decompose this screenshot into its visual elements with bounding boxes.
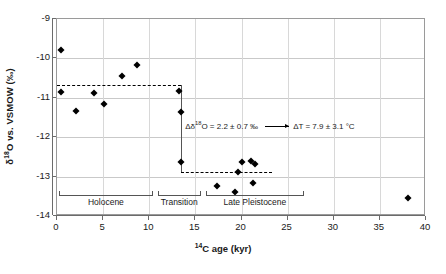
y-axis-tick-label: -13 — [36, 171, 50, 181]
x-axis: 0510152025303540 — [56, 215, 425, 221]
x-axis-tick-label: 35 — [374, 222, 385, 232]
x-axis-tick-label: 10 — [143, 222, 154, 232]
period-label-transition: Transition — [161, 198, 198, 207]
x-axis-tick — [194, 216, 195, 220]
delta-t-arrow — [265, 124, 290, 129]
gridline-vertical — [334, 19, 335, 214]
x-axis-tick — [287, 216, 288, 220]
x-axis-tick — [241, 216, 242, 220]
reference-line-pleistocene-mean — [181, 172, 272, 173]
period-label-late-pleistocene: Late Pleistocene — [223, 198, 286, 207]
gridline-horizontal — [57, 58, 424, 59]
gridline-vertical — [149, 19, 150, 214]
data-point — [405, 195, 412, 202]
x-axis-tick — [333, 216, 334, 220]
data-point — [90, 90, 97, 97]
period-bracket-late-pleistocene — [206, 191, 305, 196]
y-axis-tick-label: -10 — [36, 53, 50, 63]
y-axis-tick-label: -14 — [36, 210, 50, 220]
x-axis-tick-label: 25 — [281, 222, 292, 232]
chart-figure: δ18O vs. VSMOW (‰) -9-10-11-12-13-14 Δδ1… — [0, 0, 446, 274]
x-axis-tick-label: 40 — [420, 222, 431, 232]
y-axis-title-lead: δ — [4, 159, 15, 165]
gridline-horizontal — [57, 177, 424, 178]
data-point — [101, 100, 108, 107]
x-axis-tick-label: 15 — [189, 222, 200, 232]
data-point — [57, 89, 64, 96]
y-axis-title: δ18O vs. VSMOW (‰) — [2, 18, 16, 215]
delta-d18o-annotation: Δδ18O = 2.2 ± 0.7 ‰ — [185, 122, 258, 131]
x-axis-tick-label: 30 — [327, 222, 338, 232]
data-point — [239, 158, 246, 165]
data-point — [177, 158, 184, 165]
y-axis-tick-label: -12 — [36, 131, 50, 141]
gridline-horizontal — [57, 98, 424, 99]
data-point — [252, 160, 259, 167]
y-axis-title-sup: 18 — [2, 151, 9, 159]
gridline-horizontal — [57, 137, 424, 138]
x-axis-title: 14C age (kyr) — [0, 243, 446, 254]
data-point — [118, 73, 125, 80]
gridline-vertical — [195, 19, 196, 214]
data-point — [73, 107, 80, 114]
x-axis-tick — [379, 216, 380, 220]
delta-d18o-annotation-lead: Δδ — [185, 122, 195, 131]
data-point — [213, 183, 220, 190]
arrow-head-icon — [285, 124, 289, 128]
x-axis-title-rest: C age (kyr) — [202, 243, 251, 254]
x-axis-tick — [148, 216, 149, 220]
x-axis-tick — [56, 216, 57, 220]
period-bracket-holocene — [59, 191, 153, 196]
gridline-vertical — [380, 19, 381, 214]
data-point — [234, 168, 241, 175]
delta-d18o-annotation-rest: O = 2.2 ± 0.7 ‰ — [201, 122, 258, 131]
delta-t-annotation: ΔT = 7.9 ± 3.1 °C — [293, 122, 354, 131]
plot-area: Δδ18O = 2.2 ± 0.7 ‰ΔT = 7.9 ± 3.1 °CHolo… — [56, 18, 425, 215]
x-axis-tick — [425, 216, 426, 220]
data-point — [177, 108, 184, 115]
data-point — [134, 62, 141, 69]
y-axis-tick-label: -11 — [37, 92, 50, 102]
x-axis-tick-label: 0 — [53, 222, 58, 232]
y-axis-tick-label: -9 — [42, 13, 50, 23]
x-axis-tick-label: 20 — [235, 222, 246, 232]
gridline-vertical — [288, 19, 289, 214]
reference-line-holocene-mean — [57, 85, 181, 86]
x-axis-tick-label: 5 — [99, 222, 104, 232]
gridline-vertical — [242, 19, 243, 214]
gridline-vertical — [103, 19, 104, 214]
data-point — [250, 179, 257, 186]
period-label-holocene: Holocene — [88, 198, 124, 207]
data-point — [57, 46, 64, 53]
x-axis-tick — [102, 216, 103, 220]
y-axis-title-rest: O vs. VSMOW (‰) — [4, 68, 15, 151]
period-bracket-transition — [158, 191, 201, 196]
